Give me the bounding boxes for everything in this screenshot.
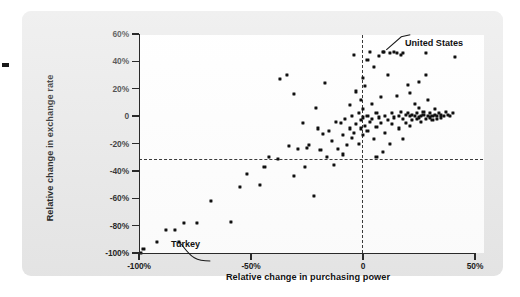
figure-panel: Relative change in exchange rate 60%40%2…	[22, 11, 503, 276]
annotation-leader-lines	[22, 11, 520, 297]
annotation-united-states: United States	[405, 38, 463, 48]
page-edge-tick-mark	[2, 63, 9, 67]
annotation-turkey: Turkey	[171, 239, 200, 249]
page-canvas: Relative change in exchange rate 60%40%2…	[0, 0, 520, 297]
